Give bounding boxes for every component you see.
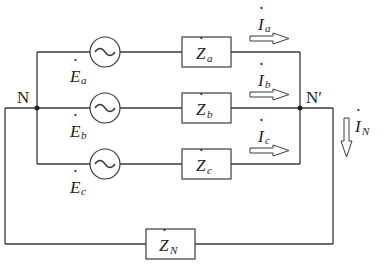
source-a	[90, 37, 120, 67]
impedance-a-subscript: a	[207, 52, 213, 64]
phasor-dot: ·	[259, 111, 263, 130]
phasor-dot: ·	[259, 0, 263, 18]
impedance-b: Z · b	[182, 85, 231, 123]
node-n-junction	[35, 106, 40, 111]
node-n-prime-label: N′	[306, 88, 322, 107]
wires	[5, 52, 333, 244]
current-b-subscript: b	[265, 78, 271, 90]
phasor-dot: ·	[259, 55, 263, 74]
node-n-label: N	[17, 88, 29, 107]
source-c-label: E · c	[69, 162, 86, 197]
current-c-subscript: c	[265, 134, 270, 146]
source-c-subscript: c	[81, 185, 86, 197]
impedance-c-subscript: c	[207, 164, 212, 176]
impedance-n: Z · N	[146, 221, 195, 259]
impedance-c: Z · c	[182, 141, 231, 179]
source-b	[90, 93, 120, 123]
source-c	[90, 149, 120, 179]
current-b-label: I · b	[257, 55, 271, 90]
three-phase-circuit: N N′ E · a E · b E · c Z · a Z · b	[0, 0, 388, 276]
phasor-dot: ·	[73, 51, 77, 70]
phasor-dot: ·	[162, 221, 166, 240]
impedance-a: Z · a	[182, 29, 231, 67]
phasor-dot: ·	[199, 141, 203, 160]
node-n-prime-junction	[298, 106, 303, 111]
current-a-label: I · a	[257, 0, 271, 34]
phasor-dot: ·	[199, 85, 203, 104]
current-c-label: I · c	[257, 111, 270, 146]
current-n-label: I · N	[354, 101, 370, 137]
current-b-arrow-icon	[250, 89, 289, 100]
phasor-dot: ·	[199, 29, 203, 48]
source-a-subscript: a	[81, 74, 87, 86]
source-a-label: E · a	[69, 51, 87, 86]
current-a-arrow-icon	[250, 33, 289, 44]
phasor-dot: ·	[356, 101, 360, 120]
current-a-subscript: a	[265, 22, 271, 34]
source-b-label: E · b	[69, 106, 87, 141]
phasor-dot: ·	[73, 106, 77, 125]
current-c-arrow-icon	[250, 145, 289, 156]
impedance-b-subscript: b	[207, 108, 213, 120]
current-n-subscript: N	[361, 125, 370, 137]
source-b-subscript: b	[81, 129, 87, 141]
phasor-dot: ·	[73, 162, 77, 181]
impedance-n-subscript: N	[169, 244, 178, 256]
current-n-arrow-icon	[341, 118, 352, 157]
